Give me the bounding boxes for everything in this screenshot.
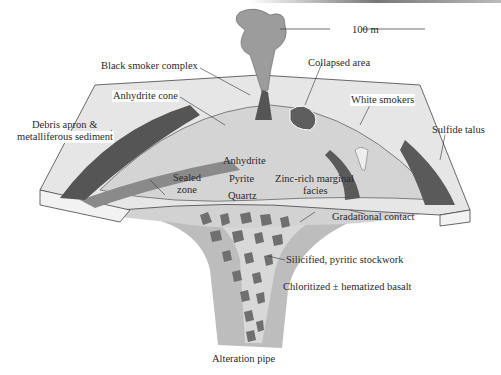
label-debris-apron-2: metalliferous sediment [16, 131, 114, 143]
vms-deposit-diagram: 100 m Black smoker complex Anhydrite con… [0, 0, 501, 375]
scale-bar-label: 100 m [352, 24, 379, 36]
label-debris-apron-1: Debris apron & [32, 119, 97, 131]
label-alteration-pipe: Alteration pipe [212, 353, 275, 365]
label-collapsed-area: Collapsed area [308, 57, 370, 69]
label-anhydrite: Anhydrite [223, 155, 266, 167]
label-anhydrite-cone: Anhydrite cone [112, 90, 179, 102]
diagram-drawing [0, 0, 501, 375]
label-sealed-zone-1: Sealed [173, 172, 201, 184]
label-stockwork: Silicified, pyritic stockwork [286, 254, 404, 266]
label-basalt: Chloritized ± hematized basalt [283, 281, 412, 293]
label-pyrite: Pyrite [229, 173, 254, 185]
label-sulfide-talus: Sulfide talus [432, 124, 485, 136]
label-sealed-zone-2: zone [177, 184, 197, 196]
label-zinc-rich-2: facies [303, 185, 327, 197]
label-black-smoker-complex: Black smoker complex [100, 60, 199, 72]
label-white-smokers: White smokers [350, 94, 415, 106]
label-zinc-rich-1: Zinc-rich marginal [275, 173, 354, 185]
label-quartz: Quartz [228, 190, 257, 202]
label-gradational-contact: Gradational contact [332, 211, 415, 223]
